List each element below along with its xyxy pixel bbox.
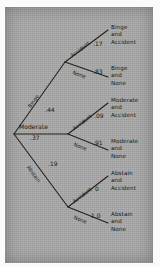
- leaf-line: None: [111, 153, 138, 160]
- prob-moderate-accident: .09: [94, 112, 104, 119]
- leaf-binge-accident: Binge and Accident: [111, 24, 136, 46]
- leaf-line: and: [111, 218, 133, 225]
- leaf-line: Binge: [111, 24, 136, 31]
- edge-label-moderate: Moderate: [19, 123, 48, 130]
- leaf-line: Accident: [111, 185, 136, 192]
- prob-binge-accident: .17: [93, 40, 103, 47]
- leaf-line: and: [111, 104, 138, 111]
- edge-root-abstain: [14, 134, 68, 207]
- leaf-line: Abstain: [111, 211, 133, 218]
- image-canvas: Binge .44 Moderate .37 Abstain .19 Accid…: [0, 0, 160, 267]
- leaf-line: Moderate: [111, 97, 138, 104]
- leaf-line: and: [111, 177, 136, 184]
- prob-abstain: .19: [48, 160, 58, 167]
- leaf-line: Accident: [111, 112, 138, 119]
- leaf-line: and: [111, 72, 127, 79]
- prob-abstain-none: 1.0: [91, 212, 101, 219]
- leaf-moderate-accident: Moderate and Accident: [111, 97, 138, 119]
- leaf-line: Moderate: [111, 138, 138, 145]
- leaf-line: Binge: [111, 65, 127, 72]
- prob-binge: .44: [45, 106, 55, 113]
- leaf-binge-none: Binge and None: [111, 65, 127, 87]
- leaf-line: Abstain: [111, 170, 136, 177]
- prob-moderate-none: .91: [93, 139, 103, 146]
- paper-background: Binge .44 Moderate .37 Abstain .19 Accid…: [5, 7, 153, 263]
- prob-abstain-accident: 0: [95, 185, 99, 192]
- leaf-line: Accident: [111, 39, 136, 46]
- leaf-abstain-accident: Abstain and Accident: [111, 170, 136, 192]
- prob-moderate: .37: [30, 134, 40, 141]
- leaf-moderate-none: Moderate and None: [111, 138, 138, 160]
- leaf-line: and: [111, 31, 136, 38]
- leaf-line: None: [111, 80, 127, 87]
- prob-binge-none: .83: [93, 68, 103, 75]
- leaf-line: and: [111, 145, 138, 152]
- leaf-line: None: [111, 226, 133, 233]
- leaf-abstain-none: Abstain and None: [111, 211, 133, 233]
